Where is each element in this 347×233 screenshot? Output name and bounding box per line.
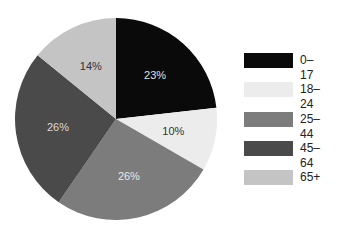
pie-slice-label: 26% [47,121,69,133]
legend-label: 65+ [300,170,320,185]
legend-swatch [244,170,293,185]
pie-slice-label: 23% [144,69,166,81]
legend-swatch [244,141,293,156]
pie-slice-label: 14% [80,60,102,72]
legend-label: 25–44 [300,112,320,142]
legend-label: 0–17 [300,53,313,83]
legend-swatch [244,53,293,68]
legend-swatch [244,112,293,127]
pie-slices [15,18,217,220]
pie-slice-label: 10% [162,125,184,137]
legend-label: 18–24 [300,82,320,112]
pie-slice-0-17 [116,18,216,119]
legend-swatch [244,82,293,97]
pie-chart: 23%10%26%26%14% [0,0,230,233]
legend-label: 45–64 [300,141,320,171]
pie-slice-label: 26% [118,170,140,182]
